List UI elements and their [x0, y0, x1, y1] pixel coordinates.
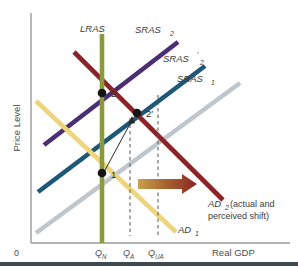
label-sras1: SRAS	[177, 73, 204, 84]
point-label-1: 1	[111, 169, 116, 180]
x-tick-qua-base: Q	[148, 248, 155, 258]
x-tick-qa-base: Q	[123, 248, 130, 258]
label-sras2-prime: SRAS	[163, 53, 190, 64]
as-ad-diagram: 2 2′ 1 LRAS SRAS 2 SRAS ′ 2 SRAS 1 AD 1 …	[0, 0, 298, 271]
x-tick-qa-subscript: A	[129, 253, 134, 260]
bottom-rule	[0, 262, 298, 266]
label-sras2: SRAS	[135, 24, 162, 35]
label-sras2-prime-subscript: 2	[199, 59, 204, 66]
y-axis-title: Price Level	[11, 105, 22, 152]
label-sras2-subscript: 2	[169, 30, 174, 37]
label-sras1-subscript: 1	[211, 79, 215, 86]
x-axis-title: Real GDP	[212, 247, 255, 258]
label-lras: LRAS	[80, 23, 105, 34]
x-tick-qua-subscript: UA	[155, 253, 164, 260]
x-tick-qn-base: Q	[95, 248, 102, 258]
label-ad2: AD	[207, 198, 221, 209]
ad2-caption-line1: (actual and	[230, 199, 275, 209]
x-tick-qn-subscript: N	[102, 253, 107, 260]
ad2-caption-line2: perceived shift)	[208, 211, 269, 221]
origin-label: 0	[14, 248, 19, 258]
equilibrium-point-2	[98, 89, 107, 98]
label-ad2-subscript: 2	[224, 204, 229, 211]
equilibrium-point-2-prime	[133, 109, 142, 118]
label-ad1-subscript: 1	[195, 230, 199, 237]
figure-container: 2 2′ 1 LRAS SRAS 2 SRAS ′ 2 SRAS 1 AD 1 …	[0, 0, 298, 271]
point-label-2: 2	[111, 88, 116, 99]
label-ad1: AD	[177, 224, 191, 235]
equilibrium-point-1	[98, 169, 107, 178]
point-label-2-prime: 2′	[146, 108, 153, 119]
